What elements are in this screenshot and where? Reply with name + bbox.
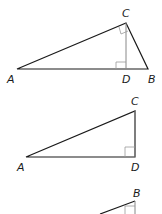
label-a2: A [16,161,25,174]
label-b3: B [133,187,141,200]
right-angle-mark-3 [125,206,135,214]
label-a1: A [6,73,15,86]
triangle-partial: B [100,187,141,214]
triangle-adc-outline [26,111,135,157]
label-c1: C [122,7,130,20]
label-b1: B [148,73,156,86]
right-angle-mark-d2 [125,147,135,157]
geometry-diagram: A C D B A C D B [0,0,162,214]
label-d2: D [131,161,139,174]
triangle-adc: A C D [16,95,139,174]
right-angle-mark-c [119,27,128,34]
label-c2: C [131,95,139,108]
triangle-abc: A C D B [6,7,156,86]
label-d1: D [122,73,130,86]
triangle-abc-outline [17,23,148,69]
